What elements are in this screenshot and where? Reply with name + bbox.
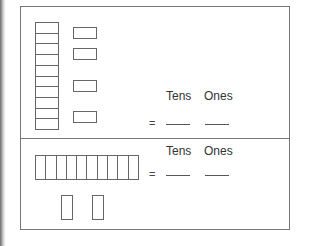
ones-answer-blank[interactable] [205, 124, 229, 125]
ones-unit-block [73, 48, 97, 60]
tens-answer-blank[interactable] [166, 124, 190, 125]
tens-header: Tens [166, 144, 191, 158]
tens-rod-horizontal [35, 155, 139, 180]
ones-unit-block [61, 195, 73, 220]
tens-header: Tens [166, 89, 191, 103]
tens-rod-vertical [35, 22, 59, 130]
page-edge-shadow [0, 0, 5, 246]
ones-header: Ones [204, 144, 233, 158]
ones-unit-block [73, 80, 97, 92]
ones-header: Ones [204, 89, 233, 103]
section-divider [20, 138, 290, 139]
ones-unit-block [73, 111, 97, 123]
equals-sign: = [149, 117, 155, 129]
ones-unit-block [92, 195, 104, 220]
equals-sign: = [149, 168, 155, 180]
ones-unit-block [73, 27, 97, 39]
tens-answer-blank[interactable] [166, 175, 190, 176]
ones-answer-blank[interactable] [205, 175, 229, 176]
